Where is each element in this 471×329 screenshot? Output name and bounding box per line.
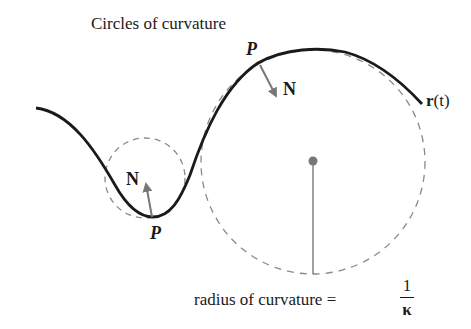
point-p-bottom-label: P: [150, 224, 161, 242]
one-over-kappa-fraction: 1 κ: [400, 276, 414, 320]
radius-of-curvature-label: radius of curvature =: [194, 291, 336, 308]
point-p-top-label: P: [246, 40, 257, 58]
diagram-title: Circles of curvature: [91, 15, 226, 32]
curve-label-arg: (t): [434, 91, 450, 110]
normal-vector-top: [260, 65, 276, 96]
normal-n-bottom-label: N: [126, 170, 139, 188]
curve-label-r: r: [426, 91, 434, 110]
fraction-numerator: 1: [400, 276, 414, 298]
curve-label: r(t): [426, 92, 450, 109]
center-of-curvature-dot: [309, 157, 318, 166]
normal-n-top-label: N: [283, 80, 296, 98]
fraction-denominator-kappa: κ: [400, 298, 414, 320]
curve-r-of-t: [36, 49, 422, 217]
normal-vector-bottom: [146, 184, 152, 217]
